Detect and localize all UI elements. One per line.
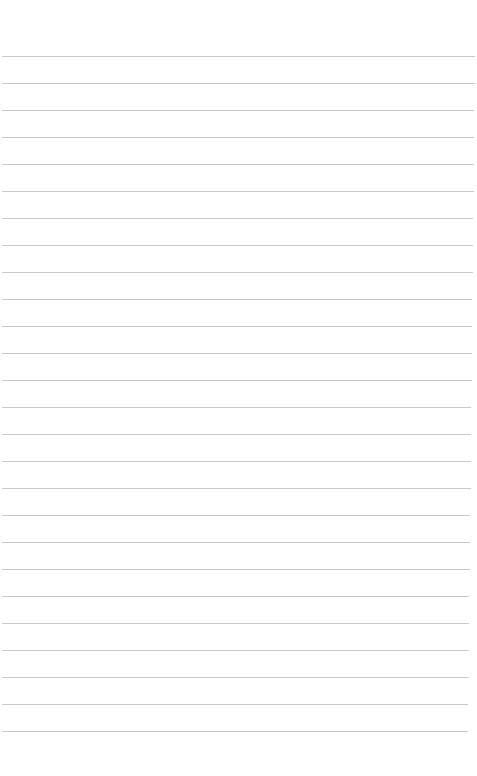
ruled-line [2, 191, 474, 192]
ruled-line [2, 353, 472, 354]
lined-paper-page [0, 0, 477, 776]
ruled-line [2, 677, 469, 678]
ruled-line [2, 272, 473, 273]
ruled-line [2, 245, 473, 246]
ruled-line [2, 326, 472, 327]
ruled-line [2, 650, 469, 651]
ruled-line [2, 218, 473, 219]
ruled-line [2, 380, 472, 381]
ruled-line [2, 704, 468, 705]
ruled-line [2, 542, 470, 543]
ruled-line [2, 299, 472, 300]
ruled-line [2, 164, 474, 165]
ruled-line [2, 110, 474, 111]
ruled-line [2, 596, 469, 597]
ruled-line [2, 488, 471, 489]
ruled-line [2, 569, 470, 570]
ruled-line [2, 623, 469, 624]
ruled-line [2, 56, 475, 57]
ruled-line [2, 461, 471, 462]
ruled-line [2, 515, 470, 516]
ruled-line [2, 731, 468, 732]
ruled-line [2, 83, 475, 84]
ruled-line [2, 407, 471, 408]
ruled-line [2, 137, 474, 138]
ruled-line [2, 434, 471, 435]
